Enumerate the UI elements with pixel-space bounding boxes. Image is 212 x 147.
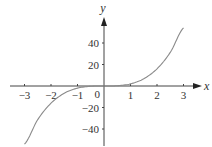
x-tick-label: 2 bbox=[154, 89, 160, 101]
y-axis-arrow-icon bbox=[101, 17, 107, 26]
y-tick-label: 20 bbox=[88, 59, 100, 71]
axes bbox=[10, 17, 202, 146]
x-tick-label: −3 bbox=[19, 89, 31, 101]
x-axis-label: x bbox=[203, 79, 210, 93]
x-tick-label: 3 bbox=[181, 89, 187, 101]
x-axis-arrow-icon bbox=[193, 83, 202, 89]
x-tick-label: 1 bbox=[128, 89, 134, 101]
origin-label: 0 bbox=[95, 88, 101, 100]
chart: −3−2−11234020−20−40 x y 0 bbox=[0, 0, 212, 147]
y-tick-label: −40 bbox=[82, 123, 100, 135]
y-tick-label: −20 bbox=[82, 102, 100, 114]
y-axis-label: y bbox=[99, 1, 106, 15]
y-tick-label: 40 bbox=[88, 37, 100, 49]
x-tick-label: −1 bbox=[72, 89, 84, 101]
